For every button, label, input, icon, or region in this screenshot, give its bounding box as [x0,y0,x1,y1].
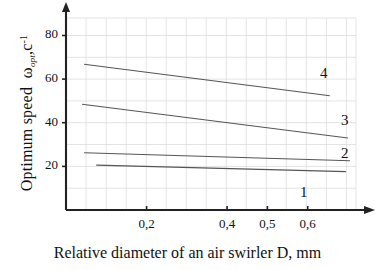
x-tick-label: 0,4 [207,216,247,232]
curve-label-4: 4 [320,65,328,82]
x-tick-label: 0,5 [247,216,287,232]
series-2 [84,151,350,161]
grid-lines [66,18,356,210]
curve-label-2: 2 [341,145,349,162]
y-axis-label: Optimum speed ωopt,c-1 [17,0,37,228]
x-tick-label: 0,2 [127,216,167,232]
series-4 [84,64,330,95]
y-axis-symbol: ω [17,67,36,78]
y-axis-label-text: Optimum speed [18,87,35,191]
series-3 [82,104,348,138]
trend-line-4 [84,64,330,95]
x-tick-label: 0,6 [288,216,328,232]
x-axis-label: Relative diameter of an air swirler D, m… [0,244,375,262]
chart-figure: 204060800,20,40,50,61234 [0,0,375,270]
trend-line-3 [82,104,348,138]
y-axis-exponent: -1 [18,35,29,44]
x-axis-arrowhead [364,206,375,214]
y-axis-arrowhead [62,2,70,12]
y-axis-subscript: opt [27,55,37,67]
y-axis-units: c [18,43,35,50]
curve-label-1: 1 [300,184,308,201]
trend-line-2 [84,153,350,161]
curve-label-3: 3 [341,112,349,129]
